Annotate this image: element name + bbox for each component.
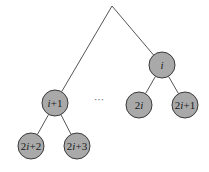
tree-node-n_2i2: 2i+2 bbox=[18, 133, 44, 159]
tree-diagram: ii+12i2i+12i+22i+3 ··· bbox=[0, 0, 209, 172]
edge-apex-n_i bbox=[112, 6, 154, 55]
tree-node-n_2i: 2i bbox=[126, 92, 152, 118]
ellipsis-indicator: ··· bbox=[94, 94, 104, 105]
edge-n_i-n_2i bbox=[145, 76, 155, 93]
edge-n_i1-n_2i3 bbox=[61, 115, 71, 135]
node-label: 2i bbox=[135, 99, 144, 111]
edge-n_i1-n_2i2 bbox=[37, 114, 48, 134]
tree-nodes: ii+12i2i+12i+22i+3 bbox=[18, 52, 198, 159]
node-label: i bbox=[160, 59, 163, 71]
node-label: i+1 bbox=[48, 97, 63, 109]
tree-node-n_2i3: 2i+3 bbox=[64, 133, 90, 159]
tree-node-n_i1: i+1 bbox=[42, 90, 68, 116]
edge-apex-n_i1 bbox=[62, 6, 112, 92]
edge-n_i-n_2i1 bbox=[168, 76, 178, 93]
node-label: 2i+2 bbox=[21, 140, 41, 152]
node-label: 2i+1 bbox=[175, 99, 195, 111]
tree-node-n_i: i bbox=[149, 52, 175, 78]
node-label: 2i+3 bbox=[67, 140, 88, 152]
tree-node-n_2i1: 2i+1 bbox=[172, 92, 198, 118]
